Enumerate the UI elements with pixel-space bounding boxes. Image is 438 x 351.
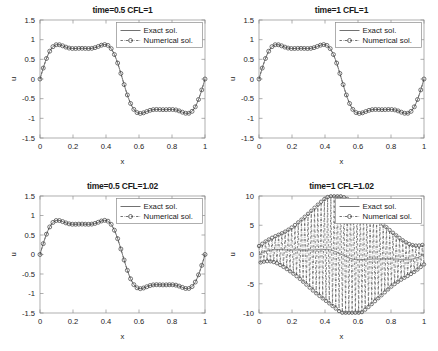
subplot-4-ytick-label: -5 [247, 280, 254, 289]
subplot-3-xtick-label: 0.8 [167, 317, 178, 326]
subplot-3-legend[interactable]: Exact sol.Numerical sol. [117, 199, 203, 224]
subplot-2-xtick-label: 0.6 [353, 142, 364, 151]
legend-numerical-label: Numerical sol. [363, 36, 412, 45]
subplot-4-ytick-label: 5 [250, 221, 254, 230]
subplot-1-xtick-label: 0.8 [167, 142, 178, 151]
subplot-1-title: time=0.5 CFL=1 [0, 5, 219, 15]
subplot-3-xtick-label: 0.2 [68, 317, 79, 326]
subplot-3-ytick-label: -0.5 [22, 270, 35, 279]
subplot-3-xtick-label: 0.4 [101, 317, 112, 326]
legend-exact-label: Exact sol. [144, 202, 178, 211]
subplot-4-legend[interactable]: Exact sol.Numerical sol. [336, 199, 422, 224]
subplot-3-ytick-label: 1 [31, 211, 35, 220]
subplot-3-xtick-label: 0 [38, 317, 42, 326]
subplot-3-ylabel: u [9, 252, 18, 256]
legend-numerical-label: Numerical sol. [363, 212, 412, 221]
subplot-2-xtick-label: 0.2 [287, 142, 298, 151]
subplot-3-xtick-label: 0.6 [134, 317, 145, 326]
subplot-4-ytick-label: 10 [246, 192, 254, 201]
subplot-2-plot-area: -1.5-1-0.500.511.500.20.40.60.81xuExact … [219, 0, 438, 176]
legend-numerical-label: Numerical sol. [144, 36, 193, 45]
subplot-2-ytick-label: 1.5 [243, 16, 254, 25]
subplot-4-xtick-label: 1 [422, 317, 426, 326]
subplot-1-ytick-label: 1 [31, 35, 35, 44]
subplot-2-ylabel: u [228, 77, 237, 81]
subplot-1-xtick-label: 0.6 [134, 142, 145, 151]
subplot-2-ytick-label: -1 [247, 114, 254, 123]
subplot-1-xtick-label: 0.4 [101, 142, 112, 151]
subplot-2-xtick-label: 0.4 [320, 142, 331, 151]
subplot-2-xtick-label: 0 [257, 142, 261, 151]
legend-numerical-label: Numerical sol. [144, 212, 193, 221]
subplot-2-legend[interactable]: Exact sol.Numerical sol. [336, 23, 422, 48]
subplot-2-ytick-label: 1 [250, 35, 254, 44]
subplot-1: time=0.5 CFL=1-1.5-1-0.500.511.500.20.40… [0, 0, 219, 176]
subplot-1-xtick-label: 0 [38, 142, 42, 151]
subplot-3-plot-area: -1.5-1-0.500.511.500.20.40.60.81xuExact … [0, 176, 219, 351]
subplot-4-xtick-label: 0.6 [353, 317, 364, 326]
subplot-3-ytick-label: -1 [28, 289, 35, 298]
subplot-1-ytick-label: -1 [28, 114, 35, 123]
subplot-1-plot-area: -1.5-1-0.500.511.500.20.40.60.81xuExact … [0, 0, 219, 176]
legend-exact-label: Exact sol. [144, 26, 178, 35]
subplot-4-plot-area: -10-5051000.20.40.60.81xuExact sol.Numer… [219, 176, 438, 351]
subplot-2-xtick-label: 1 [422, 142, 426, 151]
subplot-1-ylabel: u [9, 77, 18, 81]
subplot-1-xtick-label: 1 [203, 142, 207, 151]
subplot-3-ytick-label: 0.5 [24, 231, 35, 240]
subplot-2-xlabel: x [340, 157, 344, 166]
subplot-2-ytick-label: 0.5 [243, 55, 254, 64]
subplot-4: time=1 CFL=1.02-10-5051000.20.40.60.81xu… [219, 176, 438, 351]
subplot-4-ylabel: u [228, 252, 237, 256]
subplot-3-title: time=0.5 CFL=1.02 [0, 181, 219, 191]
subplot-4-xlabel: x [340, 332, 344, 341]
subplot-2-xtick-label: 0.8 [386, 142, 397, 151]
subplot-3-ytick-label: 0 [31, 250, 35, 259]
subplot-1-ytick-label: -1.5 [22, 134, 35, 143]
subplot-4-ytick-label: -10 [243, 309, 254, 318]
subplot-4-xtick-label: 0.2 [287, 317, 298, 326]
subplot-1-ytick-label: 1.5 [24, 16, 35, 25]
subplot-3: time=0.5 CFL=1.02-1.5-1-0.500.511.500.20… [0, 176, 219, 351]
subplot-3-xtick-label: 1 [203, 317, 207, 326]
subplot-1-ytick-label: 0.5 [24, 55, 35, 64]
subplot-3-xlabel: x [121, 332, 125, 341]
subplot-3-ytick-label: 1.5 [24, 192, 35, 201]
subplot-1-legend[interactable]: Exact sol.Numerical sol. [117, 23, 203, 48]
subplot-2-title: time=1 CFL=1 [219, 5, 438, 15]
subplot-4-title: time=1 CFL=1.02 [219, 181, 438, 191]
figure-canvas: time=0.5 CFL=1-1.5-1-0.500.511.500.20.40… [0, 0, 438, 351]
subplot-1-xtick-label: 0.2 [68, 142, 79, 151]
subplot-1-ytick-label: -0.5 [22, 94, 35, 103]
subplot-2-ytick-label: -1.5 [241, 134, 254, 143]
subplot-3-ytick-label: -1.5 [22, 309, 35, 318]
subplot-2-ytick-label: 0 [250, 75, 254, 84]
subplot-4-xtick-label: 0 [257, 317, 261, 326]
subplot-2: time=1 CFL=1-1.5-1-0.500.511.500.20.40.6… [219, 0, 438, 176]
subplot-4-ytick-label: 0 [250, 250, 254, 259]
subplot-1-xlabel: x [121, 157, 125, 166]
legend-exact-label: Exact sol. [363, 26, 397, 35]
legend-exact-label: Exact sol. [363, 202, 397, 211]
subplot-2-ytick-label: -0.5 [241, 94, 254, 103]
subplot-1-ytick-label: 0 [31, 75, 35, 84]
subplot-4-xtick-label: 0.8 [386, 317, 397, 326]
subplot-4-xtick-label: 0.4 [320, 317, 331, 326]
